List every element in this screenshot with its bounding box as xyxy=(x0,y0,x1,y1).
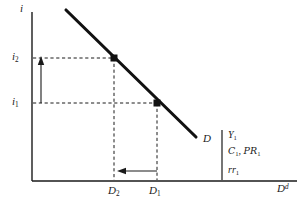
y-axis-label: i xyxy=(20,3,23,14)
quantity-decrease-arrow-head xyxy=(117,168,126,174)
interest-rate-increase-arrow-head xyxy=(38,56,44,65)
legend-item-income: Y1 xyxy=(228,130,237,140)
demand-curve xyxy=(66,10,196,137)
point-upper xyxy=(111,55,118,62)
y-tick-label-i1: i1 xyxy=(12,96,19,107)
x-axis-label: Dd xyxy=(277,183,289,194)
legend-item-consumption-risk: C1, PR1 xyxy=(228,146,260,156)
point-lower xyxy=(154,100,161,107)
x-tick-label-d2: D2 xyxy=(108,185,120,196)
demand-curve-label: D xyxy=(203,133,211,144)
y-tick-label-i2: i2 xyxy=(12,51,19,62)
legend-item-real-rate: rr1 xyxy=(228,165,239,175)
legend-symbol-pr: PR xyxy=(244,145,258,156)
x-tick-label-d1: D1 xyxy=(149,185,161,196)
money-demand-diagram: i Dd i2 i1 D2 D1 D Y1 C1, PR1 rr1 xyxy=(0,0,307,213)
diagram-canvas xyxy=(0,0,307,213)
